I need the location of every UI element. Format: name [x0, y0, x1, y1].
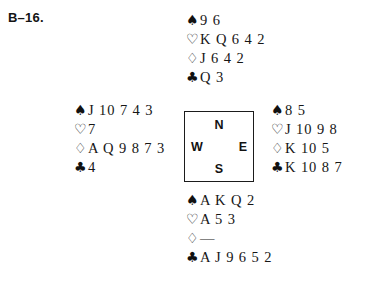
- east-clubs-row: ♣K 10 8 7: [271, 158, 343, 177]
- diamond-icon: ♢: [186, 49, 199, 68]
- hand-west: ♠J 10 7 4 3 ♡7 ♢A Q 9 8 7 3 ♣4: [74, 101, 165, 177]
- north-clubs-ranks: Q 3: [199, 68, 224, 87]
- spade-icon: ♠: [186, 191, 199, 210]
- heart-icon: ♡: [74, 120, 87, 139]
- compass-east-label: E: [239, 140, 247, 154]
- diamond-icon: ♢: [271, 139, 284, 158]
- heart-icon: ♡: [186, 30, 199, 49]
- east-hearts-ranks: J 10 9 8: [284, 120, 338, 139]
- heart-icon: ♡: [271, 120, 284, 139]
- east-hearts-row: ♡J 10 9 8: [271, 120, 343, 139]
- east-diamonds-ranks: K 10 5: [284, 139, 330, 158]
- west-hearts-row: ♡7: [74, 120, 165, 139]
- club-icon: ♣: [271, 158, 284, 177]
- south-hearts-ranks: A 5 3: [199, 210, 236, 229]
- south-spades-row: ♠A K Q 2: [186, 191, 272, 210]
- diamond-icon: ♢: [186, 229, 199, 248]
- south-clubs-ranks: A J 9 6 5 2: [199, 248, 272, 267]
- north-clubs-row: ♣Q 3: [186, 68, 265, 87]
- spade-icon: ♠: [74, 101, 87, 120]
- deal-number-label: B–16.: [8, 10, 44, 25]
- west-diamonds-ranks: A Q 9 8 7 3: [87, 139, 165, 158]
- compass-north-label: N: [214, 118, 223, 132]
- compass-box: N W E S: [184, 111, 254, 182]
- north-spades-ranks: 9 6: [199, 11, 221, 30]
- east-diamonds-row: ♢K 10 5: [271, 139, 343, 158]
- north-hearts-ranks: K Q 6 4 2: [199, 30, 265, 49]
- hand-north: ♠9 6 ♡K Q 6 4 2 ♢J 6 4 2 ♣Q 3: [186, 11, 265, 87]
- hand-east: ♠8 5 ♡J 10 9 8 ♢K 10 5 ♣K 10 8 7: [271, 101, 343, 177]
- east-spades-ranks: 8 5: [284, 101, 306, 120]
- east-spades-row: ♠8 5: [271, 101, 343, 120]
- east-clubs-ranks: K 10 8 7: [284, 158, 343, 177]
- west-clubs-row: ♣4: [74, 158, 165, 177]
- compass-south-label: S: [215, 162, 223, 176]
- bridge-deal-diagram: B–16. ♠9 6 ♡K Q 6 4 2 ♢J 6 4 2 ♣Q 3 ♠J 1…: [0, 0, 370, 283]
- north-diamonds-row: ♢J 6 4 2: [186, 49, 265, 68]
- diamond-icon: ♢: [74, 139, 87, 158]
- west-clubs-ranks: 4: [87, 158, 96, 177]
- north-diamonds-ranks: J 6 4 2: [199, 49, 245, 68]
- club-icon: ♣: [186, 68, 199, 87]
- compass-west-label: W: [191, 140, 203, 154]
- spade-icon: ♠: [271, 101, 284, 120]
- south-clubs-row: ♣A J 9 6 5 2: [186, 248, 272, 267]
- south-hearts-row: ♡A 5 3: [186, 210, 272, 229]
- spade-icon: ♠: [186, 11, 199, 30]
- south-spades-ranks: A K Q 2: [199, 191, 255, 210]
- west-diamonds-row: ♢A Q 9 8 7 3: [74, 139, 165, 158]
- west-spades-ranks: J 10 7 4 3: [87, 101, 153, 120]
- hand-south: ♠A K Q 2 ♡A 5 3 ♢— ♣A J 9 6 5 2: [186, 191, 272, 267]
- club-icon: ♣: [186, 248, 199, 267]
- west-hearts-ranks: 7: [87, 120, 96, 139]
- north-hearts-row: ♡K Q 6 4 2: [186, 30, 265, 49]
- heart-icon: ♡: [186, 210, 199, 229]
- north-spades-row: ♠9 6: [186, 11, 265, 30]
- club-icon: ♣: [74, 158, 87, 177]
- south-diamonds-ranks: —: [199, 229, 215, 248]
- south-diamonds-row: ♢—: [186, 229, 272, 248]
- west-spades-row: ♠J 10 7 4 3: [74, 101, 165, 120]
